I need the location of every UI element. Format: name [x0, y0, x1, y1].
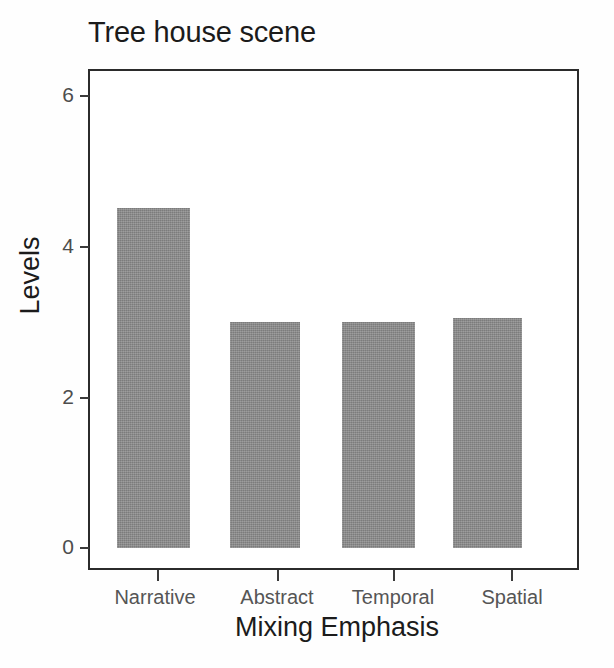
x-tick-label-narrative: Narrative [114, 586, 195, 609]
x-tick-mark-spatial [511, 570, 513, 581]
bar-abstract [230, 322, 300, 549]
x-tick-mark-temporal [393, 570, 395, 581]
x-tick-label-abstract: Abstract [240, 586, 313, 609]
x-axis-title: Mixing Emphasis [0, 612, 614, 643]
bar-narrative [117, 208, 190, 548]
y-tick-label-2: 2 [44, 385, 74, 409]
y-tick-mark-4 [80, 246, 89, 248]
y-tick-mark-2 [80, 397, 89, 399]
chart-figure: Tree house scene 6 4 2 0 Narrative Abstr… [0, 0, 614, 668]
y-tick-mark-6 [80, 95, 89, 97]
bar-temporal [342, 322, 415, 549]
y-tick-mark-0 [80, 547, 89, 549]
y-axis-title: Levels [15, 206, 46, 346]
bar-spatial [453, 318, 522, 548]
page-title: Tree house scene [88, 16, 316, 49]
x-tick-label-spatial: Spatial [481, 586, 542, 609]
y-tick-label-0: 0 [44, 535, 74, 559]
y-tick-label-6: 6 [44, 83, 74, 107]
x-tick-mark-narrative [157, 570, 159, 581]
y-tick-label-4: 4 [44, 234, 74, 258]
bars-layer [88, 69, 579, 570]
x-tick-label-temporal: Temporal [352, 586, 434, 609]
x-tick-mark-abstract [277, 570, 279, 581]
